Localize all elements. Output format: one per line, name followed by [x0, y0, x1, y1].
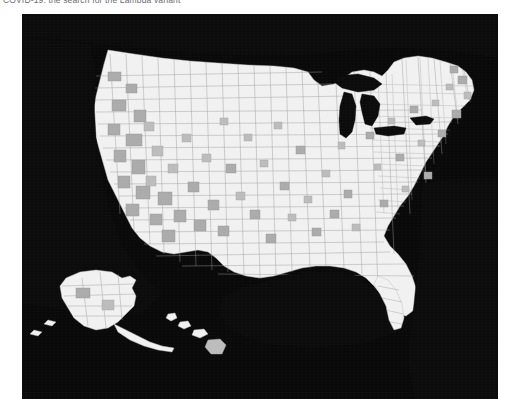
- us-county-choropleth-map: [22, 14, 498, 399]
- figure-caption-text: COVID-19: the search for the Lambda vari…: [3, 0, 180, 6]
- alaska-highlight-1: [76, 288, 90, 298]
- figure-caption-strip: COVID-19: the search for the Lambda vari…: [0, 0, 515, 14]
- atlantic-ocean-bite: [408, 178, 498, 399]
- map-figure-panel: [22, 14, 498, 399]
- alaska-highlight-2: [102, 300, 114, 310]
- lake-erie: [374, 126, 406, 136]
